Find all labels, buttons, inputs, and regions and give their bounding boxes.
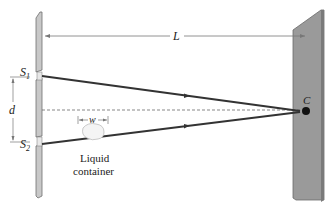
ray-from-S2	[42, 112, 300, 144]
screen	[293, 10, 324, 202]
slit-barrier	[36, 12, 42, 198]
label-C: C	[303, 94, 311, 106]
label-d: d	[9, 103, 16, 117]
slit-1-opening	[37, 72, 42, 80]
label-S2: S2	[20, 137, 30, 153]
slit-separation-d-indicator: d	[9, 77, 30, 142]
container-label-line2: container	[73, 165, 114, 177]
double-slit-diagram: L d S1 S2 w Liquid container	[0, 0, 334, 211]
label-S1: S1	[20, 65, 30, 81]
label-w: w	[89, 114, 96, 125]
point-C	[302, 107, 310, 115]
ray-from-S1	[42, 76, 300, 111]
distance-L-indicator: L	[45, 29, 305, 43]
liquid-container	[83, 124, 105, 140]
container-label-line1: Liquid	[80, 152, 110, 164]
slit-2-opening	[37, 137, 42, 146]
label-L: L	[172, 29, 180, 43]
container-width-w-indicator: w	[78, 114, 108, 125]
